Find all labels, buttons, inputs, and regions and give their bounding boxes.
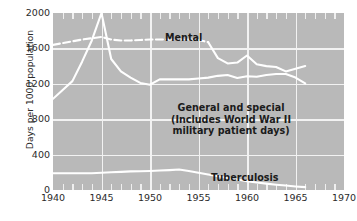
series-line-mental-solid <box>208 42 305 71</box>
y-tick-label: 2000 <box>16 8 50 18</box>
x-tick-label: 1965 <box>276 192 316 204</box>
chart-container: Days per 1000 population 040080012001600… <box>0 0 357 221</box>
x-axis-tick-labels: 1940194519501955196019651970 <box>0 192 357 212</box>
x-tick-label: 1950 <box>130 192 170 204</box>
series-label-general-line3: military patient days) <box>171 125 291 137</box>
x-tick-label: 1940 <box>33 192 73 204</box>
y-axis-tick-labels: 0400800120016002000 <box>8 0 50 221</box>
x-tick-label: 1945 <box>82 192 122 204</box>
series-line-general-and-special <box>53 13 305 99</box>
series-label-general-line1: General and special <box>171 102 291 114</box>
x-tick-label: 1970 <box>324 192 357 204</box>
y-tick-label: 1200 <box>16 79 50 89</box>
series-label-general-line2: (Includes World War II <box>171 114 291 126</box>
plot-area: Mental General and special (Includes Wor… <box>53 13 344 190</box>
x-tick-label: 1960 <box>227 192 267 204</box>
series-label-tuberculosis: Tuberculosis <box>211 172 279 183</box>
y-tick-label: 400 <box>16 150 50 160</box>
y-tick-label: 1600 <box>16 43 50 53</box>
series-label-general: General and special (Includes World War … <box>171 102 291 137</box>
y-tick-label: 800 <box>16 114 50 124</box>
series-label-mental: Mental <box>165 32 202 43</box>
x-tick-label: 1955 <box>179 192 219 204</box>
